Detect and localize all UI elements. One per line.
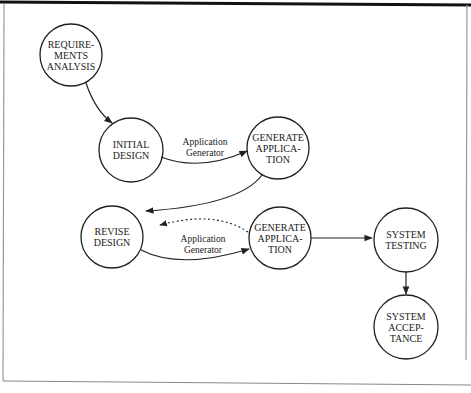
label-revise-design: REVISE DESIGN (77, 226, 147, 248)
edge-generate-to-revise (146, 175, 262, 211)
diagram-canvas: REQUIRE- MENTS ANALYSIS INITIAL DESIGN G… (0, 0, 471, 393)
edge-label-application-generator-upper: Application Generator (165, 137, 245, 159)
right-border (466, 5, 467, 360)
top-border (0, 2, 471, 5)
left-border (3, 4, 4, 381)
edge-requirements-to-initial (86, 83, 112, 123)
label-generate-application-bottom: GENERATE APPLICA- TION (245, 222, 315, 255)
label-initial-design: INITIAL DESIGN (96, 139, 166, 161)
edge-generate-to-revise-dotted (160, 219, 248, 232)
edge-label-application-generator-lower: Application Generator (163, 234, 243, 256)
label-generate-application-top: GENERATE APPLICA- TION (243, 132, 313, 165)
bottom-border (3, 381, 471, 385)
label-system-acceptance: SYSTEM ACCEP- TANCE (371, 311, 441, 344)
label-system-testing: SYSTEM TESTING (371, 229, 441, 251)
label-requirements-analysis: REQUIRE- MENTS ANALYSIS (36, 39, 106, 72)
